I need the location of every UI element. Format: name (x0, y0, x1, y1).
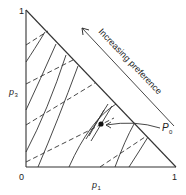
top-vertex-label: 1 (19, 6, 24, 16)
marschak-machina-triangle-diagram: Increasing preference 1 0 1 p 3 p 1 P 0 (0, 0, 186, 195)
point-p0-label: P 0 (162, 122, 173, 135)
indifference-curve-6 (115, 124, 134, 167)
svg-text:p: p (8, 87, 14, 97)
dashed-line-2 (26, 60, 73, 84)
svg-text:p: p (91, 180, 97, 190)
svg-text:1: 1 (98, 185, 102, 191)
right-vertex-label: 1 (172, 172, 177, 182)
increasing-preference-arrow: Increasing preference (82, 26, 174, 126)
svg-text:0: 0 (169, 129, 173, 135)
preference-arrow-shaft (82, 28, 174, 126)
indifference-curve-2 (26, 44, 56, 110)
svg-text:3: 3 (15, 92, 19, 98)
y-axis-label: p 3 (8, 87, 19, 98)
x-axis-label: p 1 (91, 180, 102, 191)
dashed-line-3 (26, 83, 95, 125)
indifference-curve-1 (26, 32, 45, 62)
indifference-curve-7 (129, 137, 148, 167)
svg-text:P: P (162, 122, 169, 133)
indifference-curve-4 (38, 66, 78, 167)
point-p0-marker (98, 121, 103, 126)
origin-label: 0 (19, 172, 24, 182)
indifference-curve-3 (26, 55, 66, 152)
indifference-curve-5 (69, 104, 116, 167)
preference-label: Increasing preference (97, 26, 164, 96)
